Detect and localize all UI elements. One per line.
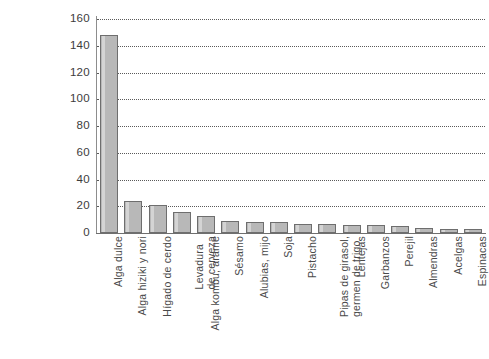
y-tick-label: 100 (50, 93, 90, 105)
x-axis-label: Alga dulce (113, 236, 124, 287)
x-axis-label: Soja (283, 236, 294, 258)
bar-chart: 160 140 120 100 80 60 40 20 0 Alga dulce… (0, 0, 489, 359)
x-axis-label-line: Hígado de cerdo (162, 236, 173, 317)
x-axis-label-line: Espinacas (477, 236, 488, 286)
y-tick-label: 80 (50, 120, 90, 132)
x-axis-label: Hígado de cerdo (162, 236, 173, 317)
x-axis-label-line: Acelgas (453, 236, 464, 275)
x-axis-label-line: Soja (283, 236, 294, 258)
y-tick-label: 20 (50, 200, 90, 212)
y-tick-label: 160 (50, 13, 90, 25)
x-axis-label-line: Lentejas (356, 236, 367, 277)
x-axis-label-line: Alubias, mijo (259, 236, 270, 298)
y-axis-tick-labels: 160 140 120 100 80 60 40 20 0 (46, 19, 90, 233)
x-axis-label: Lentejas (356, 236, 367, 277)
x-axis-line (96, 233, 486, 234)
bars-layer (97, 19, 485, 233)
bar (124, 201, 142, 233)
x-axis-label: Alubias, mijo (259, 236, 270, 298)
bar (391, 226, 409, 233)
x-axis-category-labels: Alga dulceAlga hiziki y noriHígado de ce… (97, 236, 485, 358)
x-axis-label: Sésamo (234, 236, 245, 276)
y-tick-label: 60 (50, 147, 90, 159)
x-axis-label: Garbanzos (380, 236, 391, 289)
bar (343, 225, 361, 233)
bar (173, 212, 191, 233)
x-axis-label-line: Levadura (194, 236, 206, 289)
bar (100, 35, 118, 233)
x-axis-label: Espinacas (477, 236, 488, 286)
x-axis-label-line: Alga dulce (113, 236, 124, 287)
x-axis-label: Alga hiziki y nori (137, 236, 148, 315)
x-axis-label-line: Pistacho (307, 236, 318, 278)
bar (294, 224, 312, 233)
x-axis-label: Pistacho (307, 236, 318, 278)
x-axis-label-line: Sésamo (234, 236, 245, 276)
y-tick-label: 0 (50, 227, 90, 239)
bar (367, 225, 385, 233)
x-axis-label-line: Garbanzos (380, 236, 391, 289)
bar (246, 222, 264, 233)
x-axis-label-line: Alga kombu, arame (210, 236, 221, 330)
bar (415, 228, 433, 233)
bar (270, 222, 288, 233)
bar (149, 205, 167, 233)
bar (197, 216, 215, 233)
x-axis-label-line: Almendras (428, 236, 439, 288)
y-tick-label: 140 (50, 40, 90, 52)
bar (464, 229, 482, 233)
x-axis-label: Acelgas (453, 236, 464, 275)
bar (221, 221, 239, 233)
x-axis-label-line: Perejil (404, 236, 415, 267)
x-axis-label: Perejil (404, 236, 415, 267)
x-axis-label: Almendras (428, 236, 439, 288)
bar (318, 224, 336, 233)
bar (440, 229, 458, 233)
plot-area (97, 19, 485, 233)
y-tick-label: 40 (50, 174, 90, 186)
y-tick-label: 120 (50, 67, 90, 79)
x-axis-label-line: Alga hiziki y nori (137, 236, 148, 315)
x-axis-label: Alga kombu, arame (210, 236, 221, 330)
